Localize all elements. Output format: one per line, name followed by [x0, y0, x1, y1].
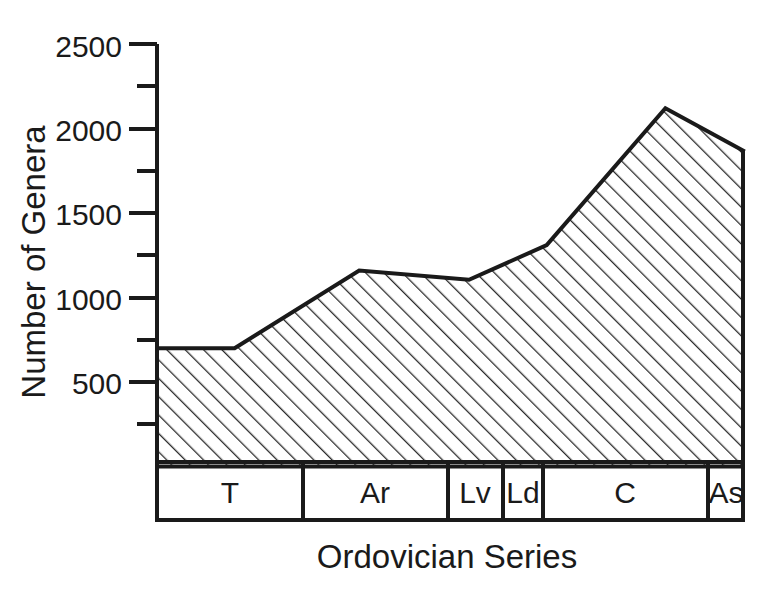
y-axis-major-ticks	[129, 44, 157, 382]
series-label-ar: Ar	[360, 476, 390, 509]
y-axis-title: Number of Genera	[15, 125, 52, 399]
area-fill	[157, 108, 743, 466]
y-tick-label-1500: 1500	[55, 198, 122, 231]
series-label-as: As	[708, 476, 743, 509]
x-axis-title: Ordovician Series	[317, 538, 577, 575]
series-box-strip: T Ar Lv Ld C As	[157, 462, 744, 520]
y-tick-label-2500: 2500	[55, 30, 122, 63]
ordovician-genera-area-chart: 2500 2000 1500 1000 500 Number of Genera…	[0, 0, 769, 600]
y-tick-label-1000: 1000	[55, 283, 122, 316]
series-label-c: C	[614, 476, 636, 509]
y-tick-label-500: 500	[72, 367, 122, 400]
y-tick-label-2000: 2000	[55, 114, 122, 147]
chart-page: 2500 2000 1500 1000 500 Number of Genera…	[0, 0, 769, 600]
series-label-lv: Lv	[459, 476, 491, 509]
series-label-t: T	[221, 476, 239, 509]
y-axis-minor-ticks	[137, 86, 157, 424]
area-hatch-region	[157, 108, 743, 466]
series-label-ld: Ld	[506, 476, 539, 509]
